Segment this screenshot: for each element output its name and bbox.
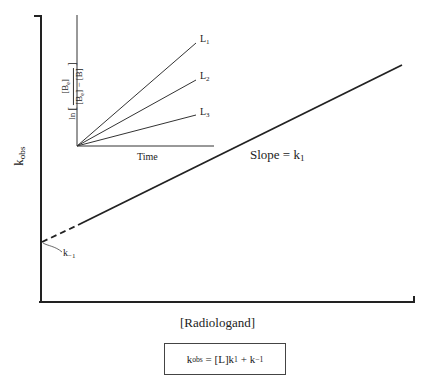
extrapolated-dashed-line	[42, 225, 78, 242]
x-axis-label: [Radiologand]	[0, 315, 435, 331]
equation-box: kobs = [L]k1 + k−1	[164, 343, 286, 375]
intercept-label: k−1	[63, 247, 75, 260]
y-axis-label: kobs	[11, 141, 27, 171]
inset-line-L2	[77, 80, 196, 146]
inset-x-label: Time	[137, 151, 158, 162]
intercept-pointer	[43, 243, 62, 252]
inset-legend-L2: L2	[200, 70, 210, 83]
inset-legend-L1: L1	[200, 33, 210, 46]
inset-legend-L3: L3	[200, 106, 210, 119]
main-x-axis	[39, 296, 414, 302]
slope-label: Slope = k1	[250, 147, 305, 163]
kobs-line	[78, 65, 402, 225]
main-y-axis	[34, 16, 41, 302]
inset-y-label: ln [ [Be] [Be] − [B] ]	[60, 46, 86, 136]
